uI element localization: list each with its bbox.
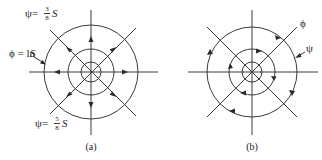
psi-bottom-numerator: 5 <box>55 115 59 123</box>
panel-a-arrow-up-icon <box>89 36 94 42</box>
panel-a-arrow-down-icon <box>89 102 94 108</box>
panel-b-caption: (b) <box>246 141 258 153</box>
psi-top-prefix: ψ= <box>25 7 38 19</box>
panel-b-psi-pointer-arrow-icon <box>295 53 302 58</box>
psi-top-numerator: 3 <box>45 5 49 13</box>
panel-a-label-psi-top: ψ= 3 8 S <box>25 5 58 22</box>
panel-a-label-phi: ϕ = ln S <box>9 47 36 59</box>
phi-var: S <box>30 47 36 59</box>
panel-b-outer-arrow-right-icon <box>289 90 295 96</box>
panel-a-arrow-lower-right-icon <box>110 92 117 98</box>
panel-a-label-psi-bottom: ψ= 5 8 S <box>35 115 68 132</box>
psi-top-denominator: 8 <box>45 14 49 22</box>
panel-b-label-psi: ψ <box>306 42 313 54</box>
psi-bottom-denominator: 8 <box>55 124 59 132</box>
panel-b: ϕ ψ (b) <box>188 10 318 153</box>
diagram-canvas: ψ= 3 8 S ϕ = ln S ψ= 5 8 S (a) <box>0 0 322 160</box>
panel-a-arrow-upper-right-icon <box>110 47 117 53</box>
psi-bottom-suffix: S <box>62 117 68 129</box>
panel-b-middle-arrow-left-icon <box>228 63 233 69</box>
panel-b-middle-arrow-right-icon <box>271 76 277 81</box>
panel-a-arrow-right-icon <box>122 70 128 75</box>
panel-a-caption: (a) <box>85 141 96 153</box>
panel-b-middle-arrow-top-icon <box>256 49 262 54</box>
psi-top-suffix: S <box>52 7 58 19</box>
panel-b-middle-arrow-bottom-icon <box>240 91 246 96</box>
psi-bottom-prefix: ψ= <box>35 117 48 129</box>
panel-a-arrow-left-icon <box>54 70 60 75</box>
panel-b-label-phi: ϕ <box>300 17 306 29</box>
panel-a: ψ= 3 8 S ϕ = ln S ψ= 5 8 S (a) <box>9 5 158 153</box>
